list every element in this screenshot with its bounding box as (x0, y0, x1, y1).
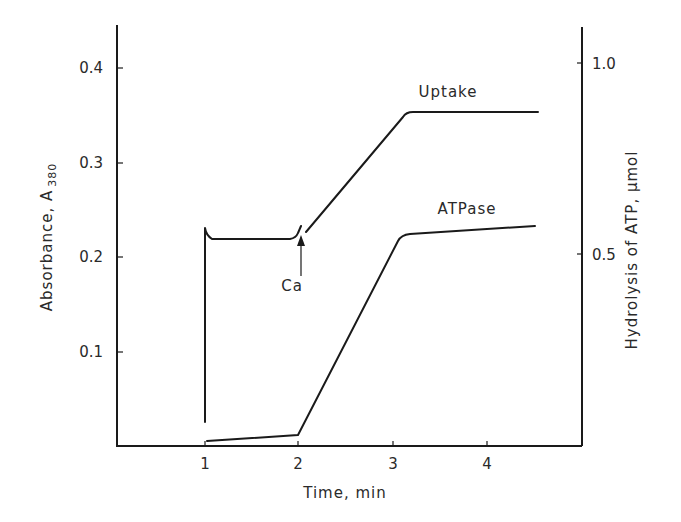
uptake-curve-label: Uptake (419, 83, 478, 101)
svg-text:Absorbance, A380: Absorbance, A380 (38, 163, 59, 311)
y-tick-label: 0.1 (79, 343, 103, 361)
y-tick-label: 0.3 (79, 154, 103, 172)
svg-text:Hydrolysis of ATP, μmol: Hydrolysis of ATP, μmol (623, 151, 641, 350)
ca-addition-arrow (297, 235, 305, 276)
x-tick-labels: 1 2 3 4 (200, 455, 492, 473)
x-tick-label: 1 (200, 455, 210, 473)
y-tick-label: 0.2 (79, 248, 103, 266)
uptake-curve (205, 226, 301, 422)
uptake-curve-continued (306, 112, 538, 232)
y-tick-label: 0.4 (79, 59, 103, 77)
x-tick-label: 3 (388, 455, 398, 473)
left-tick-labels: 0.4 0.3 0.2 0.1 (79, 59, 103, 361)
y2-tick-label: 1.0 (592, 55, 616, 73)
left-and-bottom-axis (117, 25, 582, 446)
ca-annotation-label: Ca (281, 277, 303, 295)
x-tick-label: 2 (293, 455, 303, 473)
y-axis-title-main: Absorbance, A (38, 190, 56, 311)
y-axis-title-subscript: 380 (46, 163, 59, 187)
y2-axis-title: Hydrolysis of ATP, μmol (623, 151, 641, 350)
arrowhead-icon (297, 235, 305, 246)
atpase-curve (207, 226, 535, 441)
atpase-curve-label: ATPase (438, 200, 497, 218)
y2-tick-label: 0.5 (592, 246, 616, 264)
chart: 0.4 0.3 0.2 0.1 1.0 0.5 1 2 3 4 Time, mi… (0, 0, 681, 522)
x-tick-label: 4 (482, 455, 492, 473)
right-tick-labels: 1.0 0.5 (592, 55, 616, 264)
y-axis-title: Absorbance, A380 (38, 163, 59, 311)
x-axis-title: Time, min (302, 484, 387, 502)
